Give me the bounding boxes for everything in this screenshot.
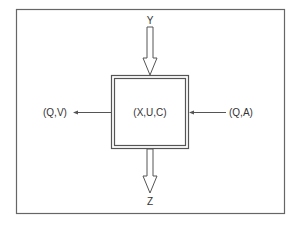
down-arrow-icon <box>143 27 157 75</box>
left-arrow-icon <box>189 111 194 115</box>
top-input-label: Y <box>147 15 154 26</box>
diagram-canvas: (X,U,C) Y Z (Q,V) (Q,A) <box>0 0 298 226</box>
block-diagram: (X,U,C) Y Z (Q,V) (Q,A) <box>0 0 298 226</box>
down-arrow-icon <box>143 149 157 193</box>
left-output-arrow: (Q,V) <box>43 107 111 118</box>
left-arrow-icon <box>73 111 78 115</box>
top-input-arrow: Y <box>143 15 157 75</box>
central-block: (X,U,C) <box>112 76 189 149</box>
central-block-label: (X,U,C) <box>133 107 166 118</box>
right-input-arrow: (Q,A) <box>189 107 253 118</box>
bottom-output-arrow: Z <box>143 149 157 207</box>
bottom-output-label: Z <box>147 196 153 207</box>
right-input-label: (Q,A) <box>229 107 253 118</box>
left-output-label: (Q,V) <box>43 107 67 118</box>
